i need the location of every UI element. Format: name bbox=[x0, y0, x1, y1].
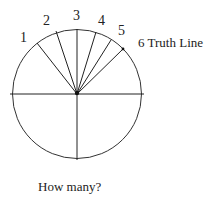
truth-line-endpoint-dot bbox=[122, 48, 125, 51]
ray-2 bbox=[56, 31, 77, 94]
label-2: 2 bbox=[43, 13, 50, 28]
truth-line-label: 6 Truth Line bbox=[138, 35, 203, 50]
ray-5 bbox=[77, 40, 111, 94]
label-1: 1 bbox=[20, 30, 27, 45]
caption: How many? bbox=[38, 179, 101, 194]
center-dot bbox=[75, 91, 79, 95]
label-5: 5 bbox=[118, 23, 125, 38]
label-4: 4 bbox=[98, 13, 105, 28]
ray-1 bbox=[37, 43, 77, 94]
label-3: 3 bbox=[73, 8, 80, 23]
truth-line-diagram: 1 2 3 4 5 6 Truth Line How many? bbox=[0, 0, 220, 202]
